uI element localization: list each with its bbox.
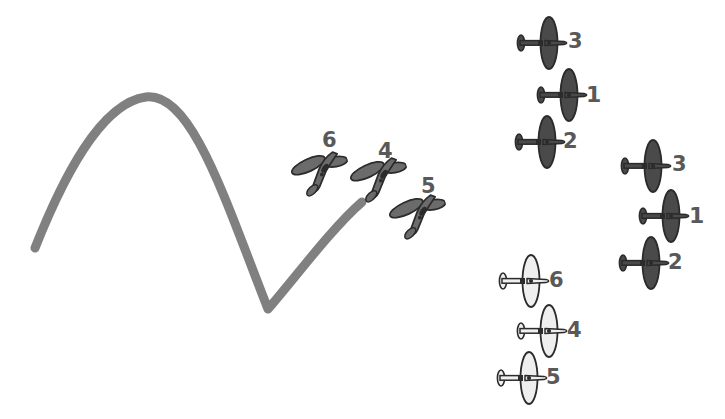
plane-glyph-top-view — [512, 14, 574, 72]
plane-glyph-top-view — [492, 349, 554, 407]
aircraft-number-label: 2 — [563, 131, 578, 152]
aircraft-number-label: 6 — [322, 130, 337, 151]
aircraft-number-label: 5 — [421, 176, 436, 197]
diagram-canvas: 6 4 5 3 — [0, 0, 725, 419]
aircraft-number-label: 1 — [689, 205, 704, 227]
aircraft-number-label: 2 — [668, 252, 683, 273]
aircraft-number-label: 3 — [672, 154, 687, 175]
plane-glyph-top-view — [614, 234, 676, 292]
aircraft-number-label: 1 — [586, 84, 601, 106]
aircraft-number-label: 6 — [549, 270, 564, 291]
aircraft-number-label: 4 — [567, 320, 582, 341]
flight-path-stroke — [35, 97, 362, 309]
aircraft-number-label: 4 — [378, 141, 393, 162]
aircraft-number-label: 3 — [568, 31, 583, 52]
aircraft-number-label: 5 — [546, 367, 561, 388]
